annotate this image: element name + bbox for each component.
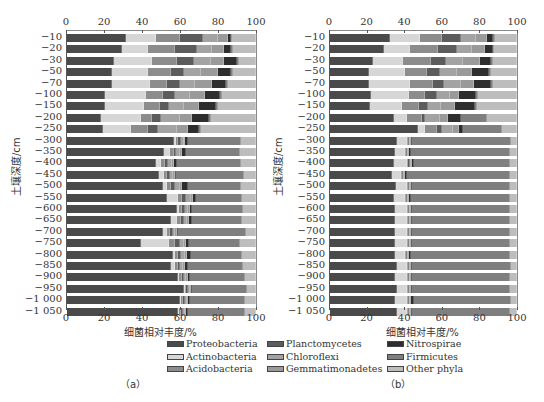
- x-tick-mark: [479, 30, 480, 33]
- segment-gemmatimonadetes: [461, 80, 474, 88]
- segment-gemmatimonadetes: [180, 114, 191, 122]
- segment-other-phyla: [495, 34, 517, 42]
- segment-actinobacteria: [397, 137, 406, 145]
- segment-other-phyla: [510, 251, 517, 259]
- segment-proteobacteria: [330, 68, 369, 76]
- segment-planctomycetes: [152, 114, 161, 122]
- segment-firmicutes: [412, 262, 511, 270]
- bar-depth-neg550: [67, 194, 256, 202]
- y-tick-label: −10: [14, 32, 62, 42]
- segment-other-phyla: [247, 285, 256, 293]
- x-tick-label: 40: [127, 17, 157, 27]
- segment-actinobacteria: [126, 34, 156, 42]
- segment-acidobacteria: [148, 45, 174, 53]
- segment-acidobacteria: [156, 34, 181, 42]
- segment-other-phyla: [242, 216, 256, 224]
- segment-nitrospirae: [472, 68, 489, 76]
- segment-gemmatimonadetes: [218, 34, 227, 42]
- segment-proteobacteria: [330, 194, 394, 202]
- y-tick-label: −50: [14, 66, 62, 76]
- segment-nitrospirae: [224, 45, 232, 53]
- x-tick-label: 40: [127, 313, 157, 323]
- segment-planctomycetes: [177, 57, 194, 65]
- x-tick-label: 0: [314, 17, 344, 27]
- segment-actinobacteria: [394, 194, 405, 202]
- segment-other-phyla: [511, 296, 517, 304]
- bar-depth-neg300: [67, 137, 256, 145]
- bar-depth-neg750: [330, 239, 517, 247]
- segment-other-phyla: [239, 57, 256, 65]
- segment-actinobacteria: [384, 45, 410, 53]
- y-tick-label: −20: [14, 43, 62, 53]
- y-tick-label: −150: [277, 100, 325, 110]
- segment-planctomycetes: [167, 80, 180, 88]
- segment-proteobacteria: [67, 296, 180, 304]
- chart-b-y-axis-title: 土壤深度/cm: [270, 137, 285, 196]
- segment-firmicutes: [461, 114, 487, 122]
- segment-firmicutes: [411, 148, 510, 156]
- segment-planctomycetes: [160, 102, 169, 110]
- segment-acidobacteria: [420, 34, 442, 42]
- bar-depth-neg450: [330, 171, 517, 179]
- segment-actinobacteria: [397, 262, 406, 270]
- bar-depth-neg950: [330, 285, 517, 293]
- y-tick-label: −30: [14, 55, 62, 65]
- segment-proteobacteria: [330, 239, 395, 247]
- bar-depth-neg150: [67, 102, 256, 110]
- bar-depth-neg1000: [67, 296, 256, 304]
- segment-actinobacteria: [114, 57, 152, 65]
- segment-acidobacteria: [150, 80, 167, 88]
- segment-other-phyla: [233, 68, 256, 76]
- segment-chloroflexi: [194, 57, 211, 65]
- segment-proteobacteria: [330, 57, 373, 65]
- segment-actinobacteria: [395, 148, 404, 156]
- segment-actinobacteria: [395, 216, 406, 224]
- legend-item-acidobacteria: Acidobacteria: [167, 363, 253, 376]
- y-tick-label: −200: [14, 112, 62, 122]
- segment-chloroflexi: [175, 91, 190, 99]
- bar-depth-neg30: [67, 57, 256, 65]
- segment-proteobacteria: [67, 114, 101, 122]
- legend-item-gemmatimonadetes: Gemmatimonadetes: [267, 363, 382, 376]
- segment-proteobacteria: [67, 216, 171, 224]
- y-tick-label: −1 000: [277, 294, 325, 304]
- chart-b-plot-area: [329, 30, 518, 310]
- segment-nitrospirae: [199, 102, 216, 110]
- segment-planctomycetes: [171, 68, 184, 76]
- segment-other-phyla: [477, 102, 517, 110]
- x-tick-label: 100: [502, 17, 532, 27]
- legend-label: Other phyla: [406, 363, 463, 376]
- legend-label: Actinobacteria: [186, 351, 257, 364]
- segment-other-phyla: [510, 239, 517, 247]
- legend-swatch: [387, 341, 404, 347]
- segment-acidobacteria: [425, 125, 436, 133]
- segment-firmicutes: [176, 171, 243, 179]
- legend-label: Firmicutes: [406, 351, 458, 364]
- segment-proteobacteria: [330, 262, 397, 270]
- segment-nitrospirae: [459, 91, 476, 99]
- segment-nitrospirae: [218, 68, 231, 76]
- segment-planctomycetes: [433, 80, 444, 88]
- chart-b-x-axis-title: 细菌相对丰度/%: [386, 324, 459, 339]
- x-tick-label: 80: [203, 17, 233, 27]
- bar-depth-neg100: [67, 91, 256, 99]
- segment-planctomycetes: [442, 34, 461, 42]
- bar-depth-neg70: [330, 80, 517, 88]
- bar-depth-neg400: [67, 159, 256, 167]
- segment-actinobacteria: [373, 57, 403, 65]
- bar-depth-neg550: [330, 194, 517, 202]
- bar-depth-neg900: [330, 273, 517, 281]
- segment-firmicutes: [412, 285, 511, 293]
- segment-firmicutes: [412, 239, 511, 247]
- segment-nitrospirae: [192, 114, 209, 122]
- x-tick-mark: [180, 30, 181, 33]
- segment-actinobacteria: [395, 205, 406, 213]
- y-tick-label: −700: [14, 226, 62, 236]
- bar-depth-neg150: [330, 102, 517, 110]
- segment-other-phyla: [243, 205, 256, 213]
- segment-chloroflexi: [169, 102, 184, 110]
- segment-chloroflexi: [184, 68, 201, 76]
- y-tick-label: −850: [277, 260, 325, 270]
- segment-gemmatimonadetes: [211, 57, 224, 65]
- segment-firmicutes: [188, 262, 243, 270]
